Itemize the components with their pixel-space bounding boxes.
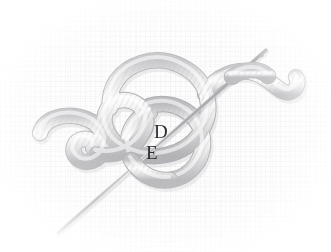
label-d: D <box>154 122 168 141</box>
label-e: E <box>146 143 158 162</box>
cord-over-needle <box>231 67 268 77</box>
figure-container: D E <box>0 0 331 252</box>
